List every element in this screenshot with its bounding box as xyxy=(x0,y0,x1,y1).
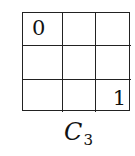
label-main: C xyxy=(64,118,82,146)
cell-value: 1 xyxy=(113,88,126,109)
label-subscript: 3 xyxy=(83,131,93,149)
cell-r0-c2 xyxy=(96,13,131,46)
cell-value: 0 xyxy=(32,18,45,39)
cell-r0-c0: 0 xyxy=(23,13,63,46)
cell-r2-c0 xyxy=(23,80,63,112)
grid-c3: 0 1 xyxy=(22,12,130,111)
grid-label: C3 xyxy=(64,118,93,149)
cell-r2-c2: 1 xyxy=(96,80,131,112)
cell-r1-c2 xyxy=(96,46,131,80)
cell-r1-c0 xyxy=(23,46,63,80)
cell-r1-c1 xyxy=(63,46,96,80)
cell-r2-c1 xyxy=(63,80,96,112)
cell-r0-c1 xyxy=(63,13,96,46)
